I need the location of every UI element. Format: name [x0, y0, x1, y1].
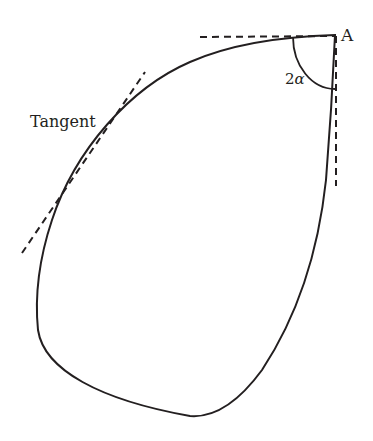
angle-alpha-symbol: α [295, 70, 305, 88]
left-tangent-line [22, 72, 145, 253]
tangent-label: Tangent [30, 112, 96, 131]
point-a-label: A [340, 25, 354, 45]
teardrop-diagram: A 2α Tangent [0, 0, 373, 441]
angle-coefficient: 2 [285, 70, 295, 88]
horizontal-tangent-at-a [200, 36, 335, 37]
angle-2alpha-label: 2α [285, 70, 305, 88]
closed-curve [37, 35, 335, 416]
